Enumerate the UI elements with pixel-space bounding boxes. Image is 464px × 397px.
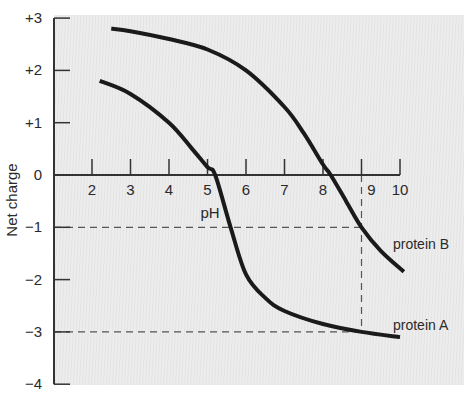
y-tick-label: −1 xyxy=(25,218,42,235)
x-tick-label: 10 xyxy=(392,181,409,198)
y-tick-label: +2 xyxy=(25,61,42,78)
x-axis-title: pH xyxy=(200,204,219,221)
x-tick-label: 3 xyxy=(126,181,134,198)
net-charge-vs-ph-chart: +3+2+10−1−2−3−4 2345678910 pH Net charge… xyxy=(0,0,464,397)
x-tick-label: 7 xyxy=(280,181,288,198)
x-tick-label: 2 xyxy=(88,181,96,198)
y-tick-label: 0 xyxy=(34,166,42,183)
y-tick-labels: +3+2+10−1−2−3−4 xyxy=(25,9,42,392)
y-tick-label: −2 xyxy=(25,271,42,288)
x-tick-label: 9 xyxy=(367,181,375,198)
x-tick-label: 8 xyxy=(319,181,327,198)
y-tick-label: +3 xyxy=(25,9,42,26)
y-tick-label: +1 xyxy=(25,114,42,131)
protein-b-label: protein B xyxy=(393,236,449,252)
x-tick-label: 5 xyxy=(203,181,211,198)
y-tick-label: −4 xyxy=(25,375,42,392)
x-tick-label: 6 xyxy=(242,181,250,198)
protein-a-label: protein A xyxy=(393,317,449,333)
x-tick-label: 4 xyxy=(165,181,173,198)
y-axis-title: Net charge xyxy=(3,163,20,236)
y-tick-label: −3 xyxy=(25,323,42,340)
